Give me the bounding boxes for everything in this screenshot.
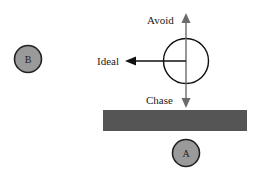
ideal-label: Ideal [97,55,119,67]
avoid-arrow [182,13,191,61]
node-b: B [15,46,42,73]
ideal-arrow [125,57,186,66]
node-a-label: A [182,148,190,159]
node-b-label: B [25,54,32,65]
node-a: A [173,140,200,167]
avoid-label: Avoid [147,14,174,26]
chase-arrow [182,61,191,108]
chase-label: Chase [146,94,173,106]
diagram-canvas: B A Avoid Ideal Chase [0,0,257,174]
obstacle-bar [103,110,247,131]
